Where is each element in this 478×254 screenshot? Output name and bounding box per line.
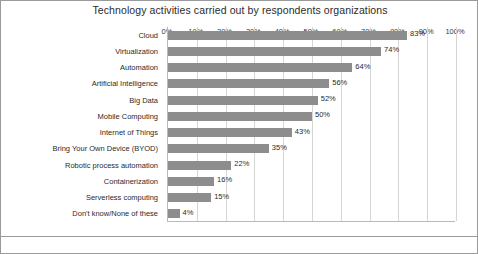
bar-value-label: 22% <box>234 159 249 168</box>
bar-value-label: 4% <box>183 208 194 217</box>
category-label: Serverless computing <box>86 190 158 205</box>
category-label: Cloud <box>138 28 158 43</box>
bar-value-label: 15% <box>214 192 229 201</box>
bar <box>168 63 352 72</box>
bar-row: 22% <box>168 158 456 173</box>
bar-value-label: 16% <box>217 175 232 184</box>
bar-value-label: 43% <box>295 127 310 136</box>
category-axis-labels: CloudVirtualizationAutomationArtificial … <box>1 27 163 222</box>
chart-card: Technology activities carried out by res… <box>0 0 478 254</box>
category-label: Internet of Things <box>100 125 158 140</box>
bar <box>168 209 180 218</box>
bar-row: 15% <box>168 190 456 205</box>
bar <box>168 161 231 170</box>
plot-area: 83%74%64%56%52%50%43%35%22%16%15%4% <box>167 27 455 222</box>
footer-strip <box>1 237 477 253</box>
bar-row: 50% <box>168 109 456 124</box>
bar-value-label: 56% <box>332 78 347 87</box>
category-label: Automation <box>120 60 158 75</box>
bar-row: 64% <box>168 60 456 75</box>
category-label: Artificial Intelligence <box>92 76 158 91</box>
bar-value-label: 64% <box>355 62 370 71</box>
bar-row: 43% <box>168 125 456 140</box>
bar-value-label: 52% <box>321 94 336 103</box>
bar-row: 74% <box>168 44 456 59</box>
bar <box>168 47 381 56</box>
category-label: Virtualization <box>115 44 158 59</box>
category-label: Big Data <box>129 93 158 108</box>
gridline <box>456 27 457 221</box>
bar <box>168 177 214 186</box>
bar-row: 4% <box>168 206 456 221</box>
bar-value-label: 50% <box>315 110 330 119</box>
bar-row: 83% <box>168 28 456 43</box>
bar-row: 56% <box>168 76 456 91</box>
bar <box>168 128 292 137</box>
bar <box>168 112 312 121</box>
bar-row: 35% <box>168 141 456 156</box>
bar-row: 16% <box>168 174 456 189</box>
bar-value-label: 74% <box>384 45 399 54</box>
category-label: Containerization <box>104 174 158 189</box>
category-label: Robotic process automation <box>65 158 158 173</box>
bar-row: 52% <box>168 93 456 108</box>
category-label: Mobile Computing <box>98 109 158 124</box>
bar <box>168 31 407 40</box>
bar <box>168 193 211 202</box>
bar-value-label: 35% <box>272 143 287 152</box>
bar <box>168 96 318 105</box>
bar-value-label: 83% <box>410 29 425 38</box>
bar <box>168 79 329 88</box>
x-axis-tick-labels: 0%10%20%30%40%50%60%70%80%90%100% <box>167 13 455 27</box>
category-label: Don't know/None of these <box>72 206 158 221</box>
category-label: Bring Your Own Device (BYOD) <box>53 141 158 156</box>
bar <box>168 144 269 153</box>
